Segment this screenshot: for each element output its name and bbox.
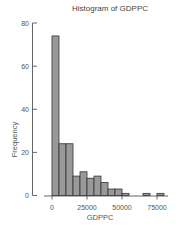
histogram-bar: [87, 178, 94, 195]
histogram-bar: [115, 189, 122, 195]
y-tick-label: 60: [21, 63, 29, 70]
histogram-bar: [108, 189, 115, 195]
x-tick-label: 25000: [77, 204, 97, 211]
x-tick-label: 75000: [147, 204, 167, 211]
histogram-bar: [52, 36, 59, 196]
x-tick-label: 50000: [112, 204, 132, 211]
histogram-chart: Histogram of GDPPC Frequency GDPPC 02040…: [0, 0, 180, 232]
histogram-bar: [59, 144, 66, 196]
histogram-bars: [52, 36, 164, 196]
histogram-bar: [73, 176, 80, 195]
x-tick-label: 0: [50, 204, 54, 211]
histogram-bar: [66, 144, 73, 196]
histogram-bar: [101, 183, 108, 196]
y-tick-label: 0: [25, 192, 29, 199]
histogram-bar: [80, 172, 87, 196]
x-axis: 0250005000075000: [44, 196, 168, 211]
plot-area: 020406080 0250005000075000: [0, 0, 180, 232]
y-tick-label: 80: [21, 20, 29, 27]
histogram-bar: [94, 176, 101, 195]
y-tick-label: 40: [21, 106, 29, 113]
y-tick-label: 20: [21, 149, 29, 156]
y-axis: 020406080: [21, 20, 37, 200]
histogram-bar: [157, 193, 164, 195]
histogram-bar: [122, 193, 129, 195]
histogram-bar: [143, 193, 150, 195]
